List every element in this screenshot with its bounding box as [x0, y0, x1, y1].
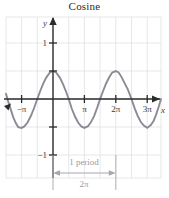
ytick-label-1: 1 — [43, 38, 48, 48]
grid-lines — [6, 17, 161, 178]
period-label: 1 period — [69, 157, 99, 167]
xtick-label-neg-pi: −π — [17, 104, 27, 114]
y-axis-arrow-up — [49, 17, 56, 25]
y-axis-label: y — [42, 18, 47, 28]
period-arrow-head-left — [53, 170, 60, 176]
cosine-plot: −π π 2π 3π 1 −1 y x 1 period 2π — [0, 12, 169, 198]
axis-arrowheads — [4, 17, 160, 111]
cosine-figure: Cosine — [0, 0, 169, 198]
ytick-label-neg-1: −1 — [37, 150, 47, 160]
x-axis-arrow-right — [152, 96, 160, 103]
period-arrow-head-right — [109, 170, 116, 176]
figure-title: Cosine — [0, 0, 169, 12]
xtick-label-3pi: 3π — [143, 104, 153, 114]
period-value-label: 2π — [79, 179, 89, 189]
axes — [4, 18, 160, 178]
xtick-label-pi: π — [82, 104, 87, 114]
xtick-label-2pi: 2π — [111, 104, 121, 114]
period-annotation: 1 period 2π — [53, 155, 116, 190]
x-axis-label: x — [160, 105, 165, 115]
